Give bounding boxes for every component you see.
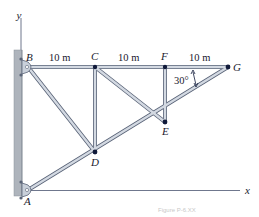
- label-f: F: [160, 50, 168, 62]
- dim-fg: 10 m: [189, 52, 210, 63]
- y-axis-label: y: [16, 9, 22, 21]
- y-axis: y: [16, 9, 22, 52]
- label-c: C: [91, 50, 99, 62]
- joint-d: [93, 150, 98, 155]
- dimension-labels: 10 m 10 m 10 m: [49, 52, 210, 63]
- wall-support: [14, 50, 22, 196]
- angle-indicator: 30°: [174, 70, 198, 87]
- x-axis-label: x: [244, 184, 250, 196]
- joint-f: [163, 65, 167, 69]
- label-e: E: [161, 125, 169, 137]
- truss-members: [28, 67, 228, 190]
- joint-labels: B C F G D E A: [23, 50, 241, 207]
- label-b: B: [26, 51, 33, 63]
- label-d: D: [90, 156, 99, 168]
- label-a: A: [23, 195, 31, 207]
- truss-diagram: y x: [0, 0, 259, 217]
- label-g: G: [233, 61, 241, 73]
- x-axis: x: [28, 184, 250, 196]
- dim-cf: 10 m: [118, 52, 139, 63]
- angle-label: 30°: [174, 75, 189, 86]
- dim-bc: 10 m: [49, 52, 70, 63]
- joint-e: [163, 120, 168, 125]
- joint-g: [226, 65, 231, 70]
- figure-caption: Figure P-6.XX: [158, 207, 196, 213]
- joint-c: [93, 65, 97, 69]
